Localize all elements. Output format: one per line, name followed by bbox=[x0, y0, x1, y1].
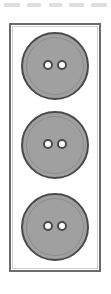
top-cutoff-mark bbox=[69, 3, 84, 7]
button-hole-icon bbox=[57, 60, 67, 70]
button-stack bbox=[9, 23, 101, 272]
sew-button bbox=[21, 32, 89, 100]
button-hole-icon bbox=[57, 221, 67, 231]
button-hole-icon bbox=[57, 139, 67, 149]
button-hole-pair bbox=[23, 34, 87, 98]
button-hole-icon bbox=[43, 139, 53, 149]
top-cutoff-mark bbox=[91, 3, 107, 7]
sew-button bbox=[21, 111, 89, 179]
top-cutoff-mark bbox=[49, 3, 62, 7]
button-hole-pair bbox=[23, 113, 87, 177]
button-hole-pair bbox=[23, 195, 87, 259]
sew-button bbox=[21, 193, 89, 261]
top-cutoff-mark bbox=[4, 3, 20, 7]
button-hole-icon bbox=[43, 60, 53, 70]
top-cutoff-artifact-band bbox=[0, 0, 111, 11]
figure-root bbox=[0, 0, 111, 294]
button-hole-icon bbox=[43, 221, 53, 231]
top-cutoff-mark bbox=[27, 3, 41, 7]
